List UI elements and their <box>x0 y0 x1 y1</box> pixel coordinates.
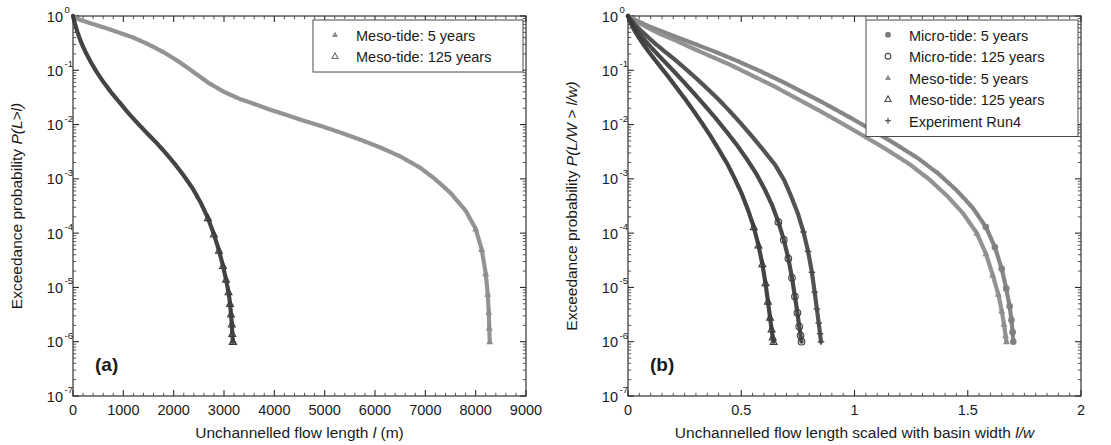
series-marker <box>486 338 493 344</box>
svg-text:5000: 5000 <box>309 402 341 418</box>
panel-label: (a) <box>95 354 118 375</box>
legend-item: Micro-tide: 125 years <box>885 49 1044 65</box>
series-marker <box>992 244 999 251</box>
y-axis-title: Exceedance probability P(L/W > l/w) <box>563 81 580 330</box>
y-tick-label: 10-3 <box>47 167 73 188</box>
svg-text:-7: -7 <box>620 384 628 395</box>
legend-label: Micro-tide: 125 years <box>909 49 1044 65</box>
svg-text:-6: -6 <box>65 330 73 341</box>
panel-b-plot: 00.511.5210010-110-210-310-410-510-610-7… <box>555 0 1111 445</box>
svg-text:Exceedance probability P(L/W >: Exceedance probability P(L/W > l/w) <box>563 81 580 330</box>
y-tick-label: 10-6 <box>602 330 628 351</box>
svg-text:4000: 4000 <box>258 402 290 418</box>
y-axis-title: Exceedance probability P(L>l) <box>8 103 25 309</box>
svg-text:3000: 3000 <box>208 402 240 418</box>
legend-label: Meso-tide: 125 years <box>356 49 491 65</box>
series-4 <box>628 16 805 345</box>
y-tick-label: 100 <box>47 4 70 25</box>
series-marker <box>1008 317 1015 324</box>
svg-text:10: 10 <box>602 63 618 79</box>
series-marker <box>484 290 491 296</box>
svg-text:10: 10 <box>602 171 618 187</box>
svg-text:-3: -3 <box>620 167 628 178</box>
svg-text:10: 10 <box>47 171 63 187</box>
panel-a: 0100020003000400050006000700080009000100… <box>0 0 556 445</box>
svg-text:10: 10 <box>47 117 63 133</box>
x-axis-title: Unchannelled flow length scaled with bas… <box>675 424 1036 441</box>
series-line <box>628 16 774 342</box>
series-marker <box>1006 303 1013 310</box>
svg-text:10: 10 <box>602 389 618 405</box>
svg-text:0: 0 <box>620 4 625 15</box>
series-5 <box>628 16 777 344</box>
svg-text:10: 10 <box>602 9 618 25</box>
legend-label: Meso-tide: 125 years <box>909 92 1044 108</box>
svg-text:8000: 8000 <box>460 402 492 418</box>
y-tick-label: 10-2 <box>47 113 73 134</box>
svg-text:10: 10 <box>602 280 618 296</box>
y-tick-label: 10-2 <box>602 113 628 134</box>
legend-item: Meso-tide: 125 years <box>885 92 1044 108</box>
y-tick-label: 10-1 <box>602 58 628 79</box>
svg-text:2000: 2000 <box>158 402 190 418</box>
legend-label: Meso-tide: 5 years <box>909 71 1028 87</box>
y-tick-label: 100 <box>602 4 625 25</box>
svg-text:-1: -1 <box>620 58 628 69</box>
panel-label: (b) <box>650 354 674 375</box>
svg-text:-2: -2 <box>620 113 628 124</box>
series-marker <box>1010 338 1017 345</box>
legend-label: Micro-tide: 5 years <box>909 28 1028 44</box>
series-marker <box>486 324 493 330</box>
svg-text:-5: -5 <box>65 275 73 286</box>
svg-text:-6: -6 <box>620 330 628 341</box>
svg-text:10: 10 <box>47 9 63 25</box>
svg-text:-4: -4 <box>620 221 628 232</box>
legend: Micro-tide: 5 yearsMicro-tide: 125 years… <box>866 20 1078 137</box>
svg-text:0.5: 0.5 <box>731 402 751 418</box>
svg-text:1000: 1000 <box>107 402 139 418</box>
svg-text:-4: -4 <box>65 221 73 232</box>
series-marker <box>998 266 1005 273</box>
svg-text:Exceedance probability P(L>l): Exceedance probability P(L>l) <box>8 103 25 309</box>
svg-text:-3: -3 <box>65 167 73 178</box>
series-line <box>73 16 233 342</box>
svg-text:10: 10 <box>47 63 63 79</box>
svg-text:0: 0 <box>65 4 70 15</box>
panel-b: 00.511.5210010-110-210-310-410-510-610-7… <box>555 0 1111 445</box>
svg-text:10: 10 <box>47 280 63 296</box>
y-tick-label: 10-6 <box>47 330 73 351</box>
svg-text:1.5: 1.5 <box>958 402 978 418</box>
svg-text:0: 0 <box>69 402 77 418</box>
svg-text:10: 10 <box>602 226 618 242</box>
svg-text:10: 10 <box>602 334 618 350</box>
legend: Meso-tide: 5 yearsMeso-tide: 125 years <box>313 20 523 72</box>
svg-text:-5: -5 <box>620 275 628 286</box>
svg-text:0: 0 <box>624 402 632 418</box>
panel-a-plot: 0100020003000400050006000700080009000100… <box>0 0 556 445</box>
svg-text:-7: -7 <box>65 384 73 395</box>
legend-label: Meso-tide: 5 years <box>356 28 475 44</box>
series-marker <box>885 32 891 38</box>
legend-label: Experiment Run4 <box>909 114 1021 130</box>
svg-text:1: 1 <box>850 402 858 418</box>
y-tick-label: 10-4 <box>47 221 73 242</box>
x-axis-title: Unchannelled flow length l (m) <box>195 424 404 441</box>
svg-text:10: 10 <box>602 117 618 133</box>
series-2 <box>73 16 237 344</box>
svg-text:2: 2 <box>1077 402 1085 418</box>
series-marker <box>983 224 990 231</box>
svg-text:10: 10 <box>47 389 63 405</box>
legend-item: Meso-tide: 125 years <box>332 49 491 65</box>
series-marker <box>1003 285 1010 292</box>
svg-text:6000: 6000 <box>359 402 391 418</box>
y-tick-label: 10-5 <box>602 275 628 296</box>
svg-text:9000: 9000 <box>510 402 542 418</box>
svg-text:10: 10 <box>47 334 63 350</box>
y-tick-label: 10-3 <box>602 167 628 188</box>
series-marker <box>485 308 492 314</box>
y-tick-label: 10-1 <box>47 58 73 79</box>
figure-container: 0100020003000400050006000700080009000100… <box>0 0 1111 445</box>
svg-text:-1: -1 <box>65 58 73 69</box>
svg-text:-2: -2 <box>65 113 73 124</box>
svg-text:7000: 7000 <box>409 402 441 418</box>
